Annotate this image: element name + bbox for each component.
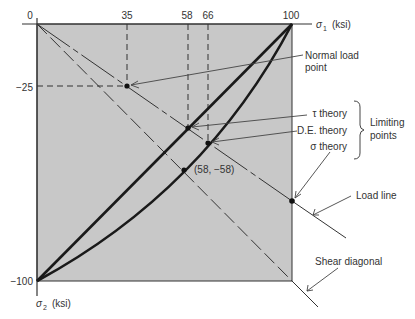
sigma1-axis-label: σ 1 (ksi) [316,19,351,32]
sigma1-unit: (ksi) [332,19,351,30]
de-theory-point-marker [205,140,210,145]
sigma-theory-point-marker [289,198,295,204]
label-limiting-1: Limiting [370,117,404,128]
failure-diagram: 0 35 58 66 100 −25 −100 σ 1 (ksi) σ 2 (k… [0,0,415,319]
label-normal-load-2: point [305,62,327,73]
sigma2-symbol: σ [36,298,43,309]
normal-load-point-marker [124,83,129,88]
shear-diagonal-extension [292,281,318,307]
sigma2-unit: (ksi) [52,298,71,309]
label-tau-theory: τ theory [312,108,347,119]
label-de-theory: D.E. theory [297,125,347,136]
label-normal-load-1: Normal load [305,50,359,61]
x-tick-58: 58 [181,10,193,21]
sigma1-symbol: σ [316,19,323,30]
label-shear-point: (58, −58) [194,164,234,175]
x-tick-66: 66 [202,10,214,21]
leader-load-line [313,196,351,215]
label-limiting-2: points [370,130,397,141]
x-tick-100: 100 [283,10,300,21]
sigma1-subscript: 1 [323,25,327,32]
leader-shear-diagonal [307,268,338,291]
limiting-points-brace [354,101,364,159]
x-tick-35: 35 [121,10,133,21]
y-tick-minus25: −25 [16,82,33,93]
load-line-extension [292,201,346,238]
label-load-line: Load line [356,190,397,201]
shear-point-marker [181,167,186,172]
sigma2-subscript: 2 [43,304,47,311]
sigma2-axis-label: σ 2 (ksi) [36,298,71,311]
x-tick-0: 0 [27,10,33,21]
label-sigma-theory: σ theory [310,141,347,152]
tau-theory-point-marker [185,125,190,130]
leader-sigma [295,152,330,198]
label-shear-diagonal: Shear diagonal [315,256,382,267]
y-tick-minus100: −100 [10,276,33,287]
